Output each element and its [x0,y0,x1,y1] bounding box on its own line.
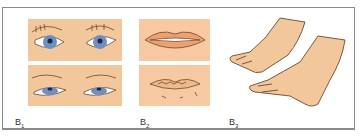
illustration-layer [0,0,360,136]
label-b2-sub: 2 [146,123,149,129]
eye-icon [32,24,116,49]
label-b3: B3 [229,117,238,129]
drooping-eye-icon [32,75,116,95]
label-b1: B1 [15,117,24,129]
dry-lips-icon [150,79,200,98]
lips-icon [145,32,205,48]
hands-icon [230,18,345,106]
label-b2: B2 [140,117,149,129]
label-b1-sub: 1 [21,123,24,129]
label-b3-sub: 3 [235,123,238,129]
